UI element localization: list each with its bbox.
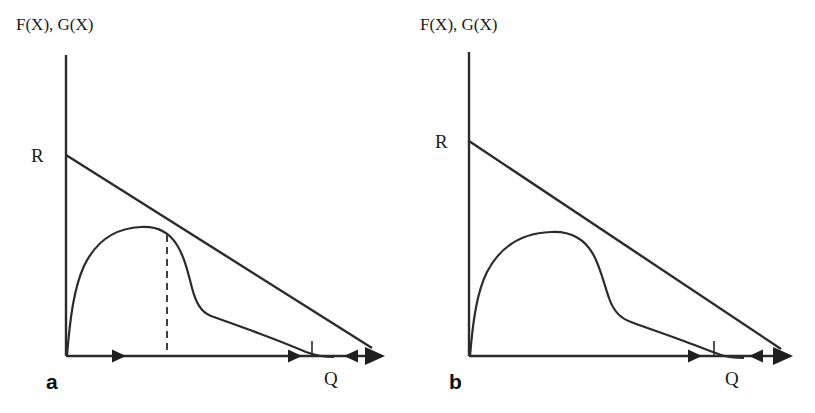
panel-a: F(X), G(X) R Q a [0,0,410,413]
panel-b-arrow-right-icon-terminal [773,347,793,365]
panel-b-line-fx [469,141,781,349]
panel-b-q-label: Q [725,368,739,389]
panel-a-arrow-left-icon [344,350,358,363]
figure-root: F(X), G(X) R Q a F(X), G(X) [0,0,815,413]
panel-b-arrow-right-icon-1 [688,350,702,363]
panel-b-label: b [449,370,462,393]
panel-b: F(X), G(X) R Q b [405,0,815,413]
panel-a-label: a [46,370,58,393]
panel-b-y-axis-label: F(X), G(X) [420,15,497,34]
panel-a-y-axis-label: F(X), G(X) [16,15,93,34]
panel-b-curve-gx [470,232,744,358]
panel-a-curve-gx [67,227,334,357]
panel-a-q-label: Q [324,368,338,389]
panel-b-r-label: R [435,131,448,152]
panel-b-arrow-left-icon [749,350,763,363]
panel-a-arrow-right-icon-1 [112,350,126,363]
panel-a-arrow-right-icon-terminal [365,347,385,365]
panel-a-r-label: R [31,145,44,166]
panel-a-arrow-right-icon-2 [288,350,302,363]
